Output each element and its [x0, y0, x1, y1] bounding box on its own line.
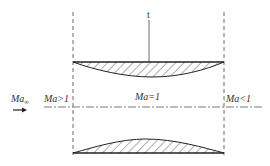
upstream-mach-label: Ma>1: [43, 93, 69, 104]
freestream-label: Ma∞: [10, 93, 29, 105]
upper-wall-bump: [73, 62, 224, 77]
throat-marker-label: t: [147, 9, 150, 20]
downstream-mach-label: Ma<1: [225, 93, 251, 104]
freestream-arrow-icon: [22, 108, 27, 113]
lower-wall-bump: [73, 139, 224, 153]
nozzle-diagram: t Ma∞ Ma>1 Ma=1 Ma<1: [0, 0, 270, 166]
throat-mach-label: Ma=1: [134, 91, 160, 102]
